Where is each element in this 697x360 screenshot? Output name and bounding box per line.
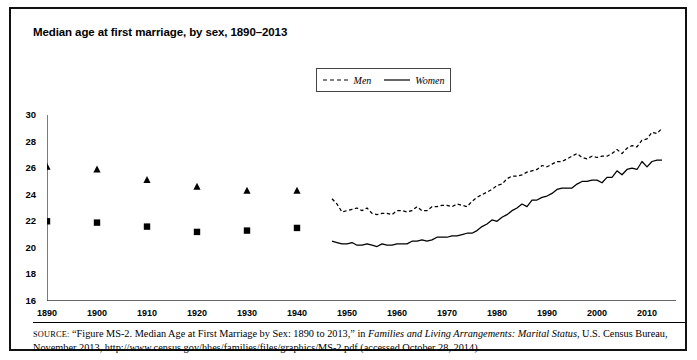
marker-triangle-men [293, 187, 300, 194]
marker-square-women [94, 219, 100, 225]
y-axis-tick-label: 28 [16, 136, 36, 147]
x-axis-tick-label: 1920 [177, 308, 217, 318]
y-axis-tick-label: 24 [16, 189, 36, 200]
source-italic-title: Families and Living Arrangements: Marita… [368, 328, 577, 339]
page-title: Median age at first marriage, by sex, 18… [33, 26, 287, 38]
x-axis-tick-label: 1960 [377, 308, 417, 318]
series-line-men [332, 128, 662, 214]
y-axis-tick-label: 16 [16, 295, 36, 306]
x-axis-tick-label: 1990 [527, 308, 567, 318]
chart-legend: Men Women [316, 68, 451, 92]
marker-triangle-men [143, 176, 150, 183]
legend-item-men: Men [323, 75, 372, 86]
source-note: SOURCE: “Figure MS-2. Median Age at Firs… [33, 327, 687, 355]
series-line-women [332, 160, 662, 246]
marker-square-women [47, 218, 50, 224]
legend-label-men: Men [354, 75, 372, 86]
marker-triangle-men [193, 183, 200, 190]
x-axis-tick-label: 1900 [77, 308, 117, 318]
marker-square-women [144, 223, 150, 229]
x-axis-tick-label: 2010 [627, 308, 667, 318]
marker-triangle-men [243, 187, 250, 194]
marker-triangle-men [47, 163, 51, 170]
x-axis-tick-label: 1910 [127, 308, 167, 318]
source-prefix: SOURCE: [33, 330, 69, 339]
y-axis-tick-label: 18 [16, 268, 36, 279]
y-axis-tick-label: 20 [16, 242, 36, 253]
source-part1: “Figure MS-2. Median Age at First Marria… [69, 328, 368, 339]
legend-dashed-line-icon [323, 76, 349, 84]
x-axis-tick-label: 1930 [227, 308, 267, 318]
chart-svg [47, 115, 678, 301]
legend-label-women: Women [415, 75, 444, 86]
marker-triangle-men [93, 165, 100, 172]
marker-square-women [194, 229, 200, 235]
x-axis-tick-label: 1890 [27, 308, 67, 318]
x-axis-tick-label: 1940 [277, 308, 317, 318]
chart-plot-area: 1618202224262830189019001910192019301940… [47, 115, 678, 301]
x-axis-tick-label: 1950 [327, 308, 367, 318]
y-axis-tick-label: 26 [16, 162, 36, 173]
legend-solid-line-icon [384, 76, 410, 84]
y-axis-tick-label: 30 [16, 109, 36, 120]
x-axis-tick-label: 1980 [477, 308, 517, 318]
x-axis-tick-label: 1970 [427, 308, 467, 318]
source-divider [33, 322, 685, 323]
marker-square-women [294, 225, 300, 231]
legend-item-women: Women [384, 75, 444, 86]
x-axis-tick-label: 2000 [577, 308, 617, 318]
figure-frame: Median age at first marriage, by sex, 18… [9, 7, 687, 351]
marker-square-women [244, 227, 250, 233]
y-axis-tick-label: 22 [16, 215, 36, 226]
